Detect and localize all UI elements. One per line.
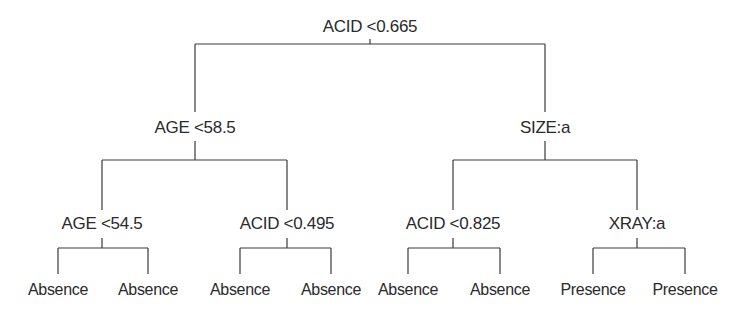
leaf-node: Absence: [28, 281, 88, 299]
split-node: XRAY:a: [609, 214, 665, 234]
leaf-node: Absence: [210, 281, 270, 299]
leaf-node: Absence: [470, 281, 530, 299]
split-node: ACID <0.495: [240, 214, 335, 234]
split-node: SIZE:a: [520, 118, 570, 138]
leaf-node: Absence: [378, 281, 438, 299]
leaf-node: Absence: [301, 281, 361, 299]
split-node: AGE <54.5: [62, 214, 143, 234]
split-node: AGE <58.5: [155, 118, 236, 138]
tree-edges: [0, 0, 751, 314]
root-node: ACID <0.665: [323, 17, 418, 37]
leaf-node: Absence: [118, 281, 178, 299]
leaf-node: Presence: [560, 281, 625, 299]
split-node: ACID <0.825: [406, 214, 501, 234]
leaf-node: Presence: [652, 281, 717, 299]
